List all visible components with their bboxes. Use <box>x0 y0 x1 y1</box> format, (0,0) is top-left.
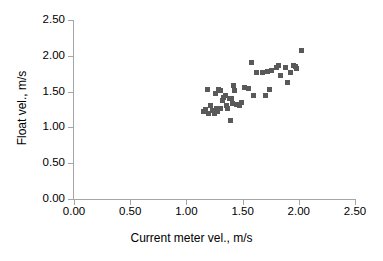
y-tick-label: 1.50 <box>43 86 65 98</box>
data-point <box>232 88 237 93</box>
x-tick-label: 0.00 <box>54 206 94 218</box>
data-point <box>225 106 230 111</box>
x-tick-label: 1.00 <box>166 206 206 218</box>
data-point <box>263 93 268 98</box>
x-tick-label: 2.00 <box>279 206 319 218</box>
data-point <box>276 63 281 68</box>
x-tick-label: 1.50 <box>223 206 263 218</box>
y-tick-label: 0.50 <box>43 157 65 169</box>
data-point <box>267 87 272 92</box>
data-point <box>299 48 304 53</box>
data-point <box>285 80 290 85</box>
data-point <box>205 87 210 92</box>
plot-area <box>74 20 355 199</box>
data-point <box>254 70 259 75</box>
x-tick-label: 0.50 <box>110 206 150 218</box>
y-tick-label: 0.00 <box>43 193 65 205</box>
scatter-chart: 0.000.501.001.502.002.50 0.000.501.001.5… <box>0 0 383 261</box>
y-tick-label: 1.00 <box>43 121 65 133</box>
data-point <box>218 106 223 111</box>
data-point <box>239 100 244 105</box>
x-tick-label: 2.50 <box>335 206 375 218</box>
y-tick-label: 2.00 <box>43 50 65 62</box>
data-point <box>228 118 233 123</box>
data-point <box>278 73 283 78</box>
x-axis-line <box>74 199 356 200</box>
data-point <box>294 66 299 71</box>
data-point <box>251 93 256 98</box>
x-axis-title: Current meter vel., m/s <box>0 231 383 245</box>
data-point <box>246 86 251 91</box>
y-axis-title: Float vel., m/s <box>15 38 29 178</box>
y-tick-label: 2.50 <box>43 14 65 26</box>
data-point <box>218 88 223 93</box>
data-point <box>283 65 288 70</box>
data-point <box>288 70 293 75</box>
data-point <box>249 60 254 65</box>
